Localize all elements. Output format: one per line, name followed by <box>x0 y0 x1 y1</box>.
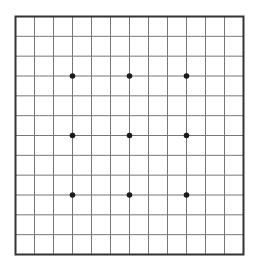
star-point-icon <box>70 73 76 79</box>
star-point-icon <box>184 192 190 198</box>
go-board-grid[interactable] <box>0 0 260 271</box>
go-board[interactable] <box>0 0 260 271</box>
star-point-icon <box>127 192 133 198</box>
star-point-icon <box>70 192 76 198</box>
star-point-icon <box>70 133 76 139</box>
star-point-icon <box>184 73 190 79</box>
star-point-icon <box>127 73 133 79</box>
star-point-icon <box>184 133 190 139</box>
star-point-icon <box>127 133 133 139</box>
